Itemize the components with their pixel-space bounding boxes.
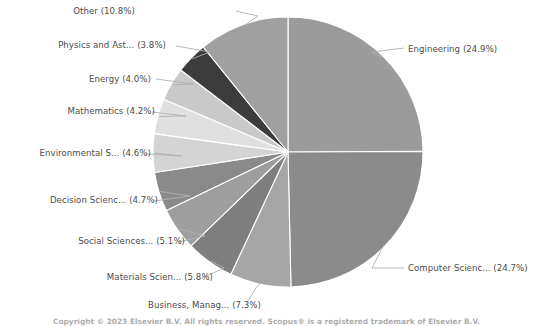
pie-label-mathematics[interactable]: Mathematics (4.2%) (67, 106, 155, 117)
pie-label-physics[interactable]: Physics and Ast... (3.8%) (58, 40, 166, 51)
pie-label-decision[interactable]: Decision Scienc... (4.7%) (50, 195, 158, 206)
pie-label-materials[interactable]: Materials Scien... (5.8%) (107, 272, 213, 283)
pie-label-energy[interactable]: Energy (4.0%) (89, 74, 151, 85)
footer-copyright: Copyright © 2023 Elsevier B.V. All right… (0, 317, 533, 326)
pie-label-engineering[interactable]: Engineering (24.9%) (408, 44, 497, 55)
pie-label-business[interactable]: Business, Manag... (7.3%) (148, 300, 261, 311)
pie-label-other[interactable]: Other (10.8%) (73, 6, 135, 17)
pie-slice-computer-scienc[interactable] (288, 151, 423, 287)
pie-label-environmental[interactable]: Environmental S... (4.6%) (40, 148, 151, 159)
pie-label-computer-science[interactable]: Computer Scienc... (24.7%) (408, 263, 528, 274)
pie-label-social[interactable]: Social Sciences... (5.1%) (78, 236, 185, 247)
pie-slices-group (153, 17, 423, 287)
pie-chart-container: Engineering (24.9%) Computer Scienc... (… (0, 0, 533, 326)
pie-slice-engineering[interactable] (288, 17, 423, 152)
